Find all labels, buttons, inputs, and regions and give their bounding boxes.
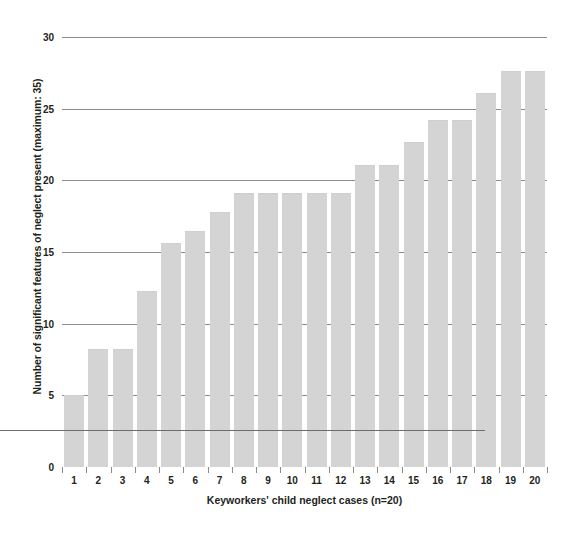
bar-7[interactable] (210, 212, 230, 467)
bar-17[interactable] (452, 120, 472, 467)
x-axis-tick-labels: 1234567891011121314151617181920 (62, 473, 547, 489)
x-tick-label-15: 15 (402, 473, 426, 489)
bar-5[interactable] (161, 243, 181, 467)
y-tick-label-0: 0 (48, 462, 54, 473)
bar-slot (86, 37, 110, 467)
bar-13[interactable] (355, 165, 375, 467)
bar-slot (377, 37, 401, 467)
bar-slot (232, 37, 256, 467)
y-tick-label-10: 10 (43, 318, 54, 329)
x-tick-label-2: 2 (86, 473, 110, 489)
bar-9[interactable] (258, 193, 278, 467)
x-tick-label-16: 16 (426, 473, 450, 489)
bar-slot (111, 37, 135, 467)
bar-slot (280, 37, 304, 467)
x-tick-label-18: 18 (474, 473, 498, 489)
y-tick-label-20: 20 (43, 175, 54, 186)
plot-area (62, 37, 547, 467)
bar-slot (183, 37, 207, 467)
x-tick-mark (547, 467, 548, 473)
x-tick-label-1: 1 (62, 473, 86, 489)
bar-slot (62, 37, 86, 467)
bar-slot (329, 37, 353, 467)
bar-slot (353, 37, 377, 467)
x-tick-label-9: 9 (256, 473, 280, 489)
x-tick-label-5: 5 (159, 473, 183, 489)
bar-slot (159, 37, 183, 467)
x-tick-label-14: 14 (377, 473, 401, 489)
bar-6[interactable] (185, 231, 205, 468)
bar-10[interactable] (282, 193, 302, 467)
bar-4[interactable] (137, 291, 157, 467)
x-tick-label-8: 8 (232, 473, 256, 489)
bar-11[interactable] (307, 193, 327, 467)
x-axis-line (0, 430, 485, 431)
bar-20[interactable] (525, 71, 545, 467)
x-tick-label-4: 4 (135, 473, 159, 489)
bar-19[interactable] (501, 71, 521, 467)
bar-2[interactable] (88, 349, 108, 467)
bar-slot (426, 37, 450, 467)
y-tick-label-25: 25 (43, 103, 54, 114)
bar-slot (305, 37, 329, 467)
bar-slot (474, 37, 498, 467)
bar-slot (135, 37, 159, 467)
x-tick-label-11: 11 (305, 473, 329, 489)
bar-slot (499, 37, 523, 467)
x-tick-label-12: 12 (329, 473, 353, 489)
y-axis-tick-labels: 051015202530 (0, 37, 62, 467)
bar-8[interactable] (234, 193, 254, 467)
x-tick-label-17: 17 (450, 473, 474, 489)
bar-series (62, 37, 547, 467)
bar-18[interactable] (476, 93, 496, 467)
bar-3[interactable] (113, 349, 133, 467)
bar-12[interactable] (331, 193, 351, 467)
y-tick-label-15: 15 (43, 247, 54, 258)
bar-1[interactable] (64, 395, 84, 467)
bar-15[interactable] (404, 142, 424, 467)
bar-slot (208, 37, 232, 467)
x-tick-label-10: 10 (280, 473, 304, 489)
x-tick-label-13: 13 (353, 473, 377, 489)
bar-slot (402, 37, 426, 467)
bar-14[interactable] (379, 165, 399, 467)
bar-16[interactable] (428, 120, 448, 467)
x-tick-label-19: 19 (499, 473, 523, 489)
y-tick-label-30: 30 (43, 32, 54, 43)
bar-slot (450, 37, 474, 467)
bar-slot (256, 37, 280, 467)
x-tick-label-20: 20 (523, 473, 547, 489)
x-tick-label-6: 6 (183, 473, 207, 489)
x-axis-title: Keyworkers' child neglect cases (n=20) (62, 494, 547, 506)
x-tick-label-3: 3 (111, 473, 135, 489)
bar-slot (523, 37, 547, 467)
bar-chart-figure: Number of significant features of neglec… (0, 0, 574, 535)
x-tick-label-7: 7 (208, 473, 232, 489)
y-tick-label-5: 5 (48, 390, 54, 401)
